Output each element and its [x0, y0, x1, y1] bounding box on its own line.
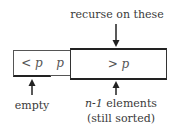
- up-arrow-icon-right: [113, 81, 120, 95]
- down-arrow-icon: [113, 24, 120, 47]
- empty-label: empty: [4, 100, 60, 112]
- elements-text: elements: [103, 97, 157, 110]
- still-sorted-label: (still sorted): [78, 113, 164, 125]
- n-minus-one-label: n-1 elements: [78, 98, 164, 110]
- n-minus-one-var: n-1: [85, 97, 103, 110]
- up-arrow-icon-left: [29, 79, 36, 95]
